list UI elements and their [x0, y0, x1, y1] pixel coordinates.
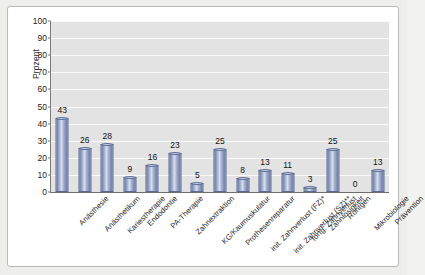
bar-value-label: 28 — [103, 131, 112, 141]
bar — [236, 178, 249, 192]
bar-cap — [213, 148, 226, 151]
y-tick-mark — [48, 140, 51, 141]
y-tick-label: 20 — [38, 153, 47, 163]
bar-slot: 43 — [51, 21, 74, 192]
bar-slot: 25 — [209, 21, 232, 192]
y-tick-label: 40 — [38, 119, 47, 129]
y-tick-mark — [48, 123, 51, 124]
bar-cap — [78, 147, 91, 150]
bar-slot: 0 — [344, 21, 367, 192]
bar — [259, 170, 272, 192]
bar-value-label: 9 — [127, 164, 132, 174]
bar — [213, 149, 226, 192]
bar-cap — [281, 172, 294, 175]
bar-slot: 26 — [74, 21, 97, 192]
y-tick-label: 70 — [38, 67, 47, 77]
bar-cap — [168, 152, 181, 155]
bar-slot: 25 — [321, 21, 344, 192]
y-tick-label: 10 — [38, 170, 47, 180]
bar — [101, 144, 114, 192]
plot-area: 4326289162352581311325013 01020304050607… — [51, 21, 389, 192]
y-tick-mark — [48, 38, 51, 39]
y-tick-mark — [48, 55, 51, 56]
bar-value-label: 25 — [328, 136, 337, 146]
bar — [304, 187, 317, 192]
y-tick-mark — [48, 174, 51, 175]
bar-slot: 23 — [164, 21, 187, 192]
bar-cap — [56, 117, 69, 120]
bar-value-label: 3 — [308, 174, 313, 184]
bar-cap — [371, 169, 384, 172]
bar-slot: 5 — [186, 21, 209, 192]
bar-slot: 13 — [366, 21, 389, 192]
y-tick-mark — [48, 72, 51, 73]
bar-cap — [101, 143, 114, 146]
y-tick-mark — [48, 192, 51, 193]
bar-slot: 16 — [141, 21, 164, 192]
bar-value-label: 0 — [353, 179, 358, 189]
bar — [281, 173, 294, 192]
bar-value-label: 13 — [373, 157, 382, 167]
bar-slot: 28 — [96, 21, 119, 192]
bar-slot: 8 — [231, 21, 254, 192]
y-tick-label: 60 — [38, 84, 47, 94]
bar-value-label: 16 — [148, 152, 157, 162]
bar-cap — [191, 182, 204, 185]
bar-value-label: 25 — [215, 136, 224, 146]
y-tick-label: 0 — [42, 187, 47, 197]
bar-slot: 3 — [299, 21, 322, 192]
bar-value-label: 43 — [58, 105, 67, 115]
bar — [191, 183, 204, 192]
bar-value-label: 23 — [170, 140, 179, 150]
bar — [56, 118, 69, 192]
bar-value-label: 8 — [240, 165, 245, 175]
bar-value-label: 5 — [195, 170, 200, 180]
y-tick-label: 90 — [38, 33, 47, 43]
x-axis-labels: AnästhesieAnästhetikumKariestherapieEndo… — [51, 194, 389, 275]
bar-value-label: 11 — [283, 160, 292, 170]
bar — [371, 170, 384, 192]
y-tick-mark — [48, 21, 51, 22]
bar-cap — [326, 148, 339, 151]
bar — [78, 148, 91, 192]
bar-slot: 9 — [119, 21, 142, 192]
bar — [146, 165, 159, 192]
y-tick-mark — [48, 106, 51, 107]
y-tick-label: 30 — [38, 136, 47, 146]
y-tick-label: 50 — [38, 102, 47, 112]
bar-cap — [236, 177, 249, 180]
y-tick-mark — [48, 157, 51, 158]
bar-cap — [304, 186, 317, 189]
bar-cap — [146, 164, 159, 167]
y-tick-mark — [48, 89, 51, 90]
bar — [326, 149, 339, 192]
bar-cap — [123, 176, 136, 179]
y-tick-label: 100 — [33, 16, 47, 26]
bar-value-label: 13 — [260, 157, 269, 167]
bar-cap — [259, 169, 272, 172]
chart-card: Prozent 4326289162352581311325013 010203… — [7, 6, 399, 267]
x-axis-line — [50, 192, 389, 193]
bar — [123, 177, 136, 192]
y-tick-label: 80 — [38, 50, 47, 60]
bar-value-label: 26 — [80, 135, 89, 145]
bar — [168, 153, 181, 192]
bar-series: 4326289162352581311325013 — [51, 21, 389, 192]
bar-slot: 11 — [276, 21, 299, 192]
bar-slot: 13 — [254, 21, 277, 192]
